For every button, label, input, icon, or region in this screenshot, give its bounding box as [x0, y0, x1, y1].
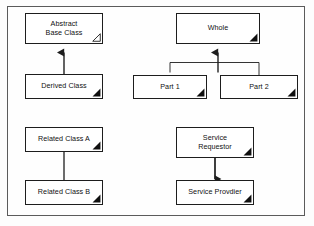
node-label: Abstract Base Class	[44, 20, 85, 37]
node-part-1[interactable]: Part 1	[133, 75, 207, 99]
node-service-provider[interactable]: Service Provdier	[176, 180, 254, 205]
filled-triangle-icon	[243, 194, 252, 203]
node-related-class-a[interactable]: Related Class A	[25, 127, 103, 152]
filled-triangle-icon	[249, 33, 258, 42]
node-label: Service Provdier	[186, 188, 244, 197]
uml-diagram-canvas: Abstract Base Class Derived Class Whole …	[0, 0, 314, 226]
node-label: Related Class A	[36, 135, 92, 144]
node-label: Part 2	[247, 83, 270, 92]
filled-triangle-icon	[92, 141, 101, 150]
node-label: Derived Class	[39, 82, 88, 91]
node-whole[interactable]: Whole	[176, 13, 260, 44]
node-label: Service Requestor	[196, 134, 234, 151]
node-service-requestor[interactable]: Service Requestor	[176, 127, 254, 158]
node-label: Part 1	[158, 83, 181, 92]
node-label: Related Class B	[36, 188, 92, 197]
filled-triangle-icon	[92, 194, 101, 203]
hollow-triangle-icon	[92, 33, 101, 42]
filled-triangle-icon	[243, 147, 252, 156]
connector-aggregation	[170, 53, 259, 76]
filled-triangle-icon	[92, 88, 101, 97]
node-derived-class[interactable]: Derived Class	[25, 74, 103, 99]
node-related-class-b[interactable]: Related Class B	[25, 180, 103, 205]
filled-triangle-icon	[287, 88, 296, 97]
node-label: Whole	[206, 24, 231, 33]
node-part-2[interactable]: Part 2	[220, 75, 298, 99]
filled-triangle-icon	[196, 88, 205, 97]
node-abstract-base-class[interactable]: Abstract Base Class	[25, 13, 103, 44]
